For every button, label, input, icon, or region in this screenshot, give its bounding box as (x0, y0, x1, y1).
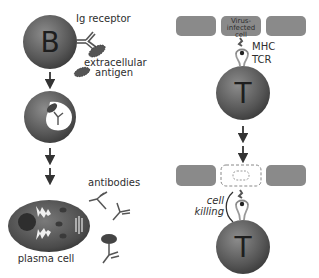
tissue-row-top: Virus- infected cell (176, 16, 306, 39)
antibody-icon (113, 203, 130, 220)
nucleus (18, 213, 36, 231)
ig-receptor-icon (76, 32, 96, 49)
tcr-label: TCR (251, 54, 272, 65)
immune-response-diagram: B Ig receptor extracellular antigen (0, 0, 319, 278)
cell-killing-label-line1: cell (207, 195, 224, 206)
antibody-icon (89, 192, 107, 209)
antigen-label-line2: antigen (95, 67, 133, 78)
antibodies-label: antibodies (88, 177, 140, 188)
killing-bracket (226, 192, 233, 222)
mhc-tcr-complex-icon (236, 190, 248, 220)
killed-cell (221, 165, 261, 186)
b-cell-group: B Ig receptor extracellular antigen (23, 13, 148, 78)
plasma-cell-label: plasma cell (18, 253, 75, 264)
antigen-icon (101, 234, 117, 244)
cell-killing-label-line2: killing (194, 206, 224, 217)
plasma-cell (8, 200, 90, 252)
t-cell-letter-bottom: T (233, 231, 252, 264)
tissue-cell (176, 16, 216, 36)
mhc-tcr-complex-icon (236, 38, 248, 66)
b-cell-letter: B (40, 26, 59, 59)
antibody-icon (103, 244, 119, 263)
tissue-cell (266, 165, 306, 186)
tissue-cell (266, 16, 306, 36)
ig-receptor-label: Ig receptor (76, 13, 132, 24)
tissue-row-bottom (176, 165, 306, 186)
t-cell-letter-top: T (233, 77, 252, 110)
b-cell-internalizing-antigen (24, 91, 76, 143)
tissue-cell (176, 165, 216, 186)
mhc-label: MHC (252, 41, 275, 52)
